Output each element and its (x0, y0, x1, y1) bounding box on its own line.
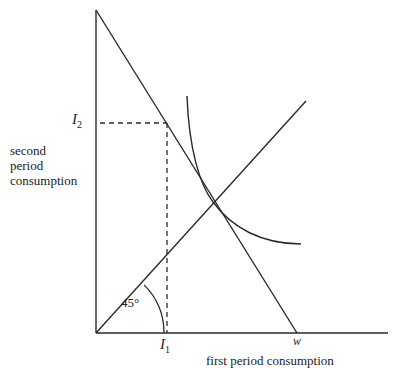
y-axis-label-line-2: period (10, 158, 77, 173)
angle-arc (144, 285, 164, 333)
budget-line (96, 10, 297, 333)
angle-label: 45° (121, 295, 139, 310)
y-axis-label-line-3: consumption (10, 173, 77, 188)
y-axis-label-line-1: second (10, 143, 77, 158)
label-w: w (293, 334, 301, 349)
label-I1: I1 (160, 337, 170, 353)
x-axis-label: first period consumption (206, 353, 334, 368)
y-axis-label: second period consumption (10, 143, 77, 188)
label-I2: I2 (72, 112, 82, 128)
